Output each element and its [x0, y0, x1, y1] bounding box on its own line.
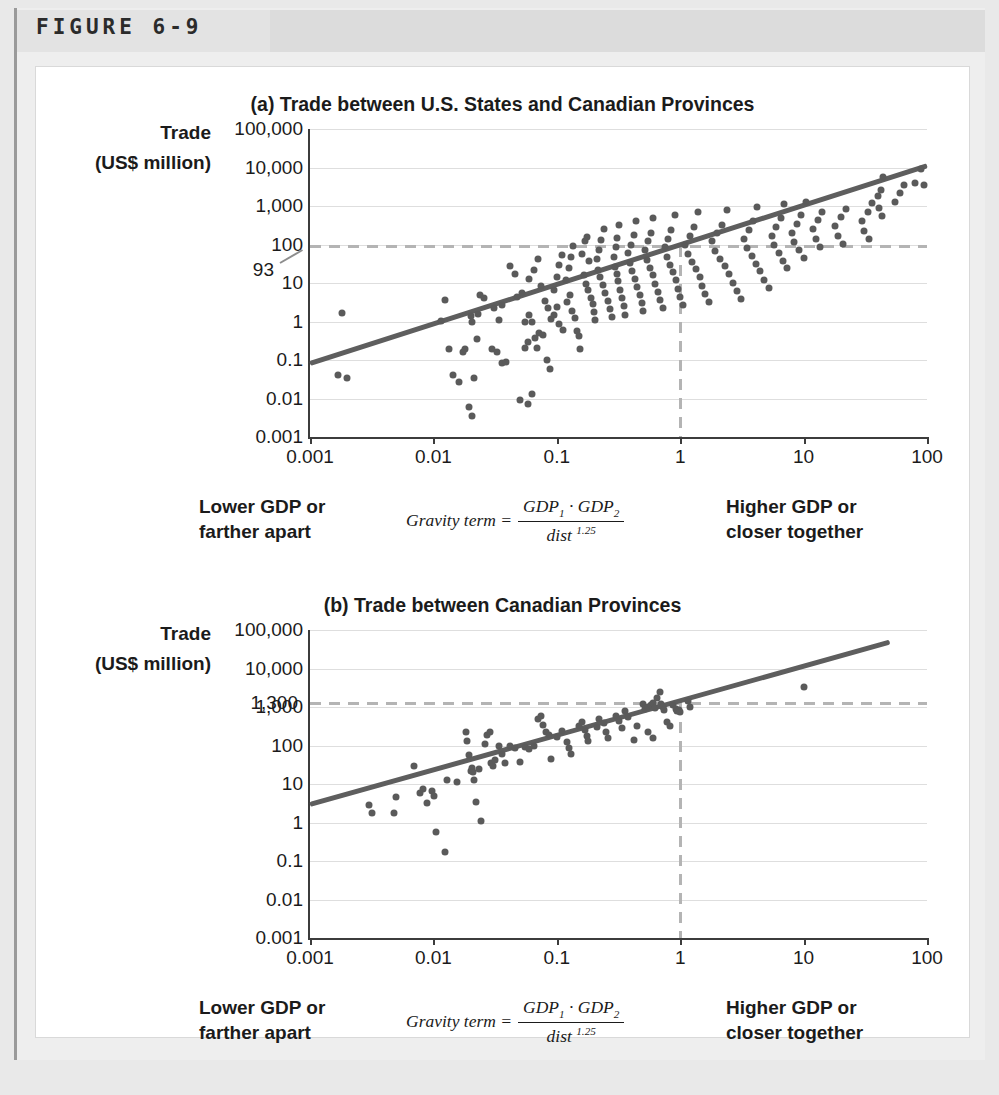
scatter-point: [745, 226, 752, 233]
scatter-point: [797, 212, 804, 219]
scatter-point: [499, 301, 506, 308]
scatter-point: [575, 333, 582, 340]
scatter-point: [705, 299, 712, 306]
scatter-point: [567, 751, 574, 758]
x-axis-tick: [433, 437, 435, 444]
scatter-point: [516, 397, 523, 404]
panel-a-caption-right-line1: Higher GDP or: [726, 495, 863, 520]
y-axis-tick-label: 0.01: [266, 388, 303, 410]
scatter-point: [631, 275, 638, 282]
scatter-point: [652, 280, 659, 287]
scatter-point: [545, 731, 552, 738]
scatter-point: [670, 269, 677, 276]
figure-banner-tint: [270, 10, 985, 52]
scatter-point: [565, 264, 572, 271]
scatter-point: [816, 243, 823, 250]
scatter-point: [463, 728, 470, 735]
y-axis-tick-label: 100,000: [234, 118, 303, 140]
scatter-point: [466, 752, 473, 759]
scatter-point: [619, 724, 626, 731]
scatter-point: [663, 253, 670, 260]
scatter-point: [796, 246, 803, 253]
scatter-point: [600, 720, 607, 727]
scatter-point: [691, 224, 698, 231]
scatter-point: [524, 401, 531, 408]
scatter-point: [765, 285, 772, 292]
scatter-point: [629, 267, 636, 274]
scatter-point: [900, 181, 907, 188]
scatter-point: [537, 712, 544, 719]
scatter-point: [431, 792, 438, 799]
y-axis-tick-label: 0.1: [277, 850, 303, 872]
scatter-point: [771, 242, 778, 249]
scatter-point: [512, 745, 519, 752]
scatter-point: [773, 223, 780, 230]
panel-a-plot-area: 0.0010.010.11101001,00010,000100,0000.00…: [308, 129, 927, 439]
scatter-point: [628, 241, 635, 248]
scatter-point: [558, 252, 565, 259]
scatter-point: [659, 304, 666, 311]
scatter-point: [744, 245, 751, 252]
scatter-point: [553, 303, 560, 310]
scatter-point: [896, 189, 903, 196]
scatter-point: [567, 292, 574, 299]
scatter-point: [686, 232, 693, 239]
scatter-point: [453, 779, 460, 786]
scatter-point: [585, 287, 592, 294]
scatter-point: [912, 179, 919, 186]
scatter-point: [750, 218, 757, 225]
scatter-point: [559, 327, 566, 334]
scatter-point: [682, 241, 689, 248]
scatter-point: [671, 211, 678, 218]
scatter-point: [686, 704, 693, 711]
scatter-point: [411, 762, 418, 769]
gridline: [310, 206, 927, 207]
scatter-point: [480, 294, 487, 301]
x-axis-tick-label: 10: [793, 446, 814, 468]
scatter-point: [526, 312, 533, 319]
scatter-point: [864, 208, 871, 215]
scatter-point: [737, 296, 744, 303]
scatter-point: [640, 307, 647, 314]
horizontal-guide-dashed-line: [310, 702, 927, 705]
scatter-point: [568, 307, 575, 314]
x-axis-tick: [680, 938, 682, 945]
scatter-point: [677, 294, 684, 301]
scatter-point: [545, 305, 552, 312]
scatter-point: [869, 199, 876, 206]
panel-a-caption-left-line1: Lower GDP or: [199, 495, 325, 520]
panel-b-caption-right-line2: closer together: [726, 1021, 863, 1046]
panel-a-gravity-formula: Gravity term = GDP1 · GDP2 dist 1.25: [406, 496, 624, 545]
scatter-point: [494, 348, 501, 355]
scatter-point: [541, 297, 548, 304]
scatter-point: [553, 274, 560, 281]
y-axis-tick-label: 0.01: [266, 889, 303, 911]
y-axis-tick-label: 1,000: [255, 195, 303, 217]
gridline: [310, 360, 927, 361]
panel-a-formula-fraction: GDP1 · GDP2 dist 1.25: [518, 496, 624, 545]
x-axis-tick-label: 0.001: [286, 446, 334, 468]
scatter-point: [461, 346, 468, 353]
scatter-point: [714, 229, 721, 236]
scatter-point: [648, 229, 655, 236]
scatter-point: [775, 250, 782, 257]
scatter-point: [756, 268, 763, 275]
scatter-point: [666, 723, 673, 730]
scatter-point: [781, 201, 788, 208]
scatter-point: [726, 271, 733, 278]
x-axis-tick: [310, 437, 312, 444]
scatter-point: [455, 378, 462, 385]
scatter-point: [832, 223, 839, 230]
gridline: [310, 322, 927, 323]
scatter-point: [866, 235, 873, 242]
scatter-point: [538, 282, 545, 289]
scatter-point: [675, 285, 682, 292]
scatter-point: [810, 226, 817, 233]
scatter-point: [793, 220, 800, 227]
scatter-point: [369, 809, 376, 816]
x-axis-tick: [927, 437, 929, 444]
scatter-point: [450, 372, 457, 379]
figure-content-card: (a) Trade between U.S. States and Canadi…: [35, 66, 970, 1038]
scatter-point: [594, 266, 601, 273]
scatter-point: [636, 291, 643, 298]
